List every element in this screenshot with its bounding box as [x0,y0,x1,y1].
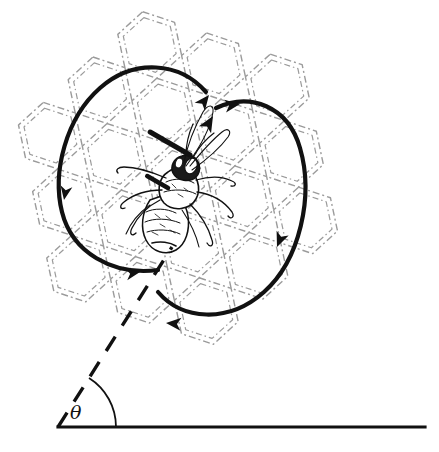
comb-cell [29,163,100,242]
waggle-dance-diagram [0,0,439,452]
comb-cell [79,118,150,197]
bee-illustration [117,106,235,253]
figure-canvas: θ [0,0,439,452]
angle-arc [89,378,116,427]
comb-cell [178,27,249,106]
comb-cell [107,251,178,330]
comb-cell [15,96,86,175]
dashed-angle-ray [58,247,172,427]
theta-angle-label: θ [70,403,81,422]
